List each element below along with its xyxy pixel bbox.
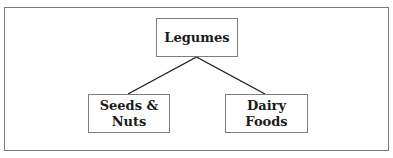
node-seeds-nuts-label: Seeds & Nuts xyxy=(100,98,159,130)
node-seeds-nuts: Seeds & Nuts xyxy=(88,94,170,133)
node-dairy-foods-label: Dairy Foods xyxy=(245,98,287,130)
node-legumes: Legumes xyxy=(156,18,238,57)
node-dairy-foods: Dairy Foods xyxy=(225,94,308,133)
node-legumes-label: Legumes xyxy=(164,30,229,46)
